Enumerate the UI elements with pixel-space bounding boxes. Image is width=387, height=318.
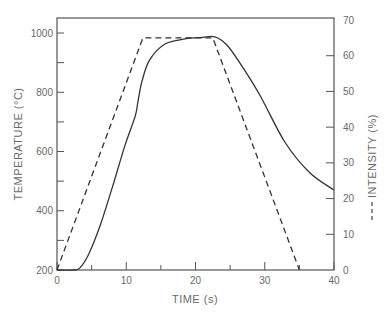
y2-tick-label: 50 [343,86,355,97]
y-tick-label: 800 [36,87,53,98]
y2-tick-label: 60 [343,50,355,61]
plot-frame [57,18,334,270]
y2-tick-label: 40 [343,122,355,133]
y2-tick-label: 10 [343,229,355,240]
y-tick-label: 400 [36,205,53,216]
x-tick-label: 40 [328,275,340,286]
y-tick-label: 1000 [31,28,54,39]
y2-tick-label: 20 [343,193,355,204]
y2-tick-label: 30 [343,157,355,168]
y-axis-ticks: 2004006008001000 [31,28,64,276]
y-tick-label: 200 [36,265,53,276]
y2-axis-title: INTENSITY (%) [366,114,378,198]
y2-axis-ticks: 010203040506070 [326,15,355,276]
x-tick-label: 30 [259,275,271,286]
x-axis-title: TIME (s) [172,293,218,305]
chart: 010203040 2004006008001000 0102030405060… [0,0,387,318]
x-tick-label: 10 [121,275,133,286]
y2-tick-label: 0 [343,265,349,276]
x-tick-label: 0 [54,275,60,286]
x-tick-label: 20 [190,275,202,286]
y2-tick-label: 70 [343,15,355,26]
y2-axis-legend: INTENSITY (%) [366,114,378,220]
y-tick-label: 600 [36,146,53,157]
y-axis-title: TEMPERATURE (°C) [12,87,24,200]
temperature-series [57,36,334,270]
intensity-series [57,38,299,270]
